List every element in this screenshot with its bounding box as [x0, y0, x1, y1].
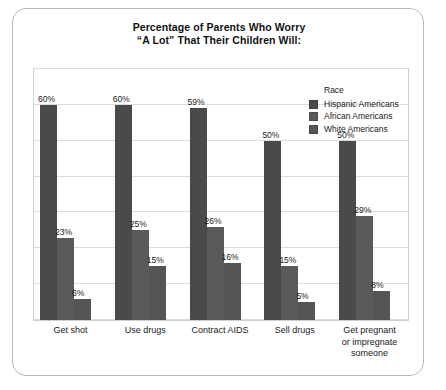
legend-item: African Americans	[309, 111, 399, 123]
legend-item-label: African Americans	[324, 111, 393, 123]
legend-item-label: Hispanic Americans	[324, 99, 399, 111]
chart-card: Percentage of Parents Who Worry “A Lot” …	[12, 8, 424, 376]
bar-value-label: 15%	[279, 255, 296, 265]
chart-title-line-2: “A Lot” That Their Children Will:	[13, 34, 425, 47]
bar: 59%	[190, 108, 207, 320]
legend-swatch-icon	[309, 100, 318, 109]
category-label: Get shot	[33, 325, 108, 337]
bar: 5%	[298, 302, 315, 320]
bar-value-label: 60%	[113, 94, 130, 104]
category-label-line: Use drugs	[108, 325, 183, 337]
bar: 60%	[40, 105, 57, 320]
bar: 50%	[264, 141, 281, 320]
bar-value-label: 29%	[354, 205, 371, 215]
category-label-line: Get shot	[33, 325, 108, 337]
bar-value-label: 16%	[222, 252, 239, 262]
bar-value-label: 59%	[188, 97, 205, 107]
legend-heading: Race	[324, 85, 399, 97]
category-label-line: Sell drugs	[257, 325, 332, 337]
bar-value-label: 15%	[147, 255, 164, 265]
bar: 23%	[57, 238, 74, 320]
bar-group: 60%23%6%	[34, 69, 109, 320]
legend-item-label: White Americans	[324, 124, 388, 136]
category-label-line: or impregnate	[332, 337, 407, 349]
bar: 6%	[74, 299, 91, 321]
bar: 29%	[356, 216, 373, 320]
bar: 16%	[224, 263, 241, 320]
chart-title-line-1: Percentage of Parents Who Worry	[13, 21, 425, 34]
legend-item: Hispanic Americans	[309, 99, 399, 111]
bar: 25%	[132, 230, 149, 320]
category-label: Use drugs	[108, 325, 183, 337]
legend: Race Hispanic AmericansAfrican Americans…	[309, 85, 399, 136]
bar: 60%	[115, 105, 132, 320]
bar-group: 59%26%16%	[184, 69, 259, 320]
category-label-line: Get pregnant	[332, 325, 407, 337]
bar: 26%	[207, 227, 224, 320]
bar-value-label: 5%	[296, 291, 308, 301]
legend-items: Hispanic AmericansAfrican AmericansWhite…	[309, 99, 399, 136]
category-label: Contract AIDS	[183, 325, 258, 337]
legend-swatch-icon	[309, 112, 318, 121]
bar: 15%	[149, 266, 166, 320]
category-label: Get pregnantor impregnatesomeone	[332, 325, 407, 360]
bar-value-label: 60%	[38, 94, 55, 104]
bar-value-label: 25%	[130, 219, 147, 229]
category-label: Sell drugs	[257, 325, 332, 337]
bar-value-label: 8%	[371, 280, 383, 290]
bar: 50%	[339, 141, 356, 320]
legend-swatch-icon	[309, 125, 318, 134]
category-label-line: someone	[332, 348, 407, 360]
bar-value-label: 26%	[205, 216, 222, 226]
bar-value-label: 23%	[55, 227, 72, 237]
bar-group: 60%25%15%	[109, 69, 184, 320]
bar-value-label: 50%	[262, 130, 279, 140]
bar: 8%	[373, 291, 390, 320]
bar-value-label: 6%	[72, 288, 84, 298]
chart-title: Percentage of Parents Who Worry “A Lot” …	[13, 21, 425, 47]
legend-item: White Americans	[309, 124, 399, 136]
category-label-line: Contract AIDS	[183, 325, 258, 337]
